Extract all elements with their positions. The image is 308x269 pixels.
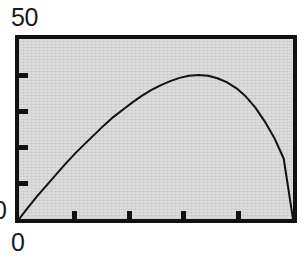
x-axis-tick bbox=[181, 211, 186, 219]
data-curve bbox=[19, 75, 293, 219]
plot-frame bbox=[15, 35, 297, 223]
y-axis-tick bbox=[19, 73, 28, 78]
x-axis-tick bbox=[127, 211, 132, 219]
curve-plot bbox=[19, 39, 293, 219]
y-axis-tick bbox=[19, 181, 28, 186]
y-axis-max-label: 50 bbox=[11, 5, 38, 30]
plot-area bbox=[19, 39, 293, 219]
x-axis-min-label: 0 bbox=[11, 230, 24, 255]
y-axis-tick bbox=[19, 109, 28, 114]
x-axis-tick bbox=[236, 211, 241, 219]
y-axis-tick bbox=[19, 145, 28, 150]
figure: 50 0 0 bbox=[0, 0, 308, 269]
y-axis-min-label: 0 bbox=[0, 198, 6, 223]
x-axis-tick bbox=[72, 211, 77, 219]
